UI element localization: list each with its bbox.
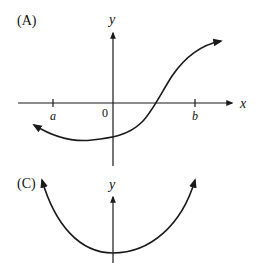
- y-axis-label-c: y: [107, 177, 116, 192]
- tick-a-label: a: [50, 109, 56, 123]
- tick-b-label: b: [192, 109, 198, 123]
- diagram-canvas: (A) y x a 0 b (C) y: [0, 0, 260, 263]
- x-axis-label: x: [239, 96, 247, 111]
- panel-c: (C) y: [17, 176, 195, 263]
- panel-c-label: (C): [17, 176, 36, 192]
- panel-a: (A) y x a 0 b: [17, 12, 247, 166]
- curve-a: [34, 41, 221, 140]
- y-axis-label: y: [107, 12, 116, 27]
- origin-label: 0: [102, 106, 108, 120]
- curve-c: [42, 180, 195, 253]
- panel-a-label: (A): [17, 13, 37, 29]
